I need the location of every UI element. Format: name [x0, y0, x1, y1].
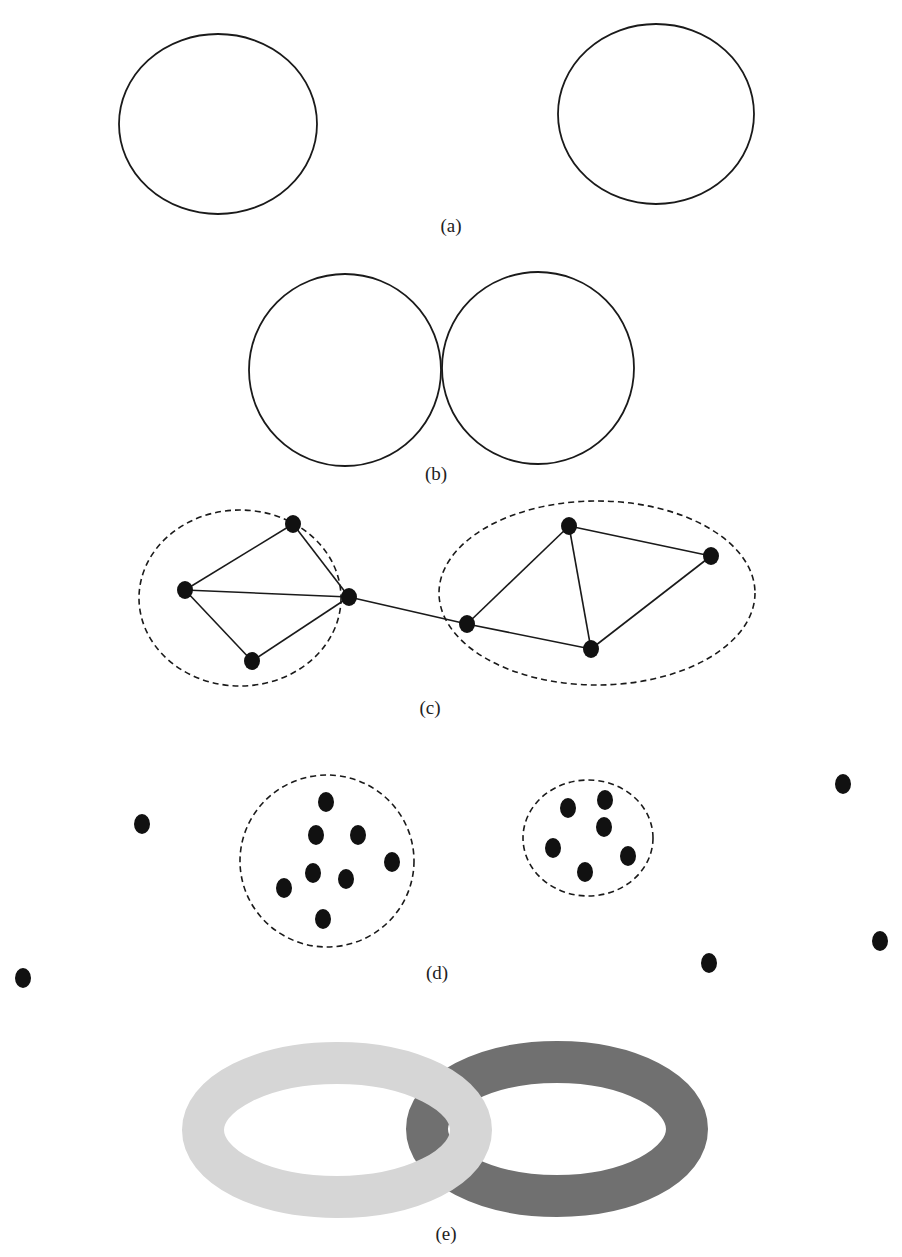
point: [384, 852, 400, 872]
node: [177, 581, 193, 599]
outlier-point: [835, 774, 851, 794]
edge: [293, 524, 349, 597]
caption-d: (d): [426, 962, 448, 984]
edge: [185, 590, 252, 661]
caption-b: (b): [425, 463, 447, 485]
panel-b: (b): [249, 272, 634, 485]
edge: [185, 524, 293, 590]
edge: [467, 624, 591, 649]
edge: [569, 526, 591, 649]
edge: [467, 526, 569, 624]
edge: [591, 556, 711, 649]
caption-c: (c): [419, 697, 440, 719]
outlier-point: [15, 968, 31, 988]
figure: (a) (b): [0, 0, 902, 1257]
point: [545, 838, 561, 858]
node: [561, 517, 577, 535]
bridge-edge: [349, 597, 467, 624]
node: [285, 515, 301, 533]
point: [276, 878, 292, 898]
circle-right: [558, 24, 754, 204]
panel-d: (d): [15, 774, 888, 988]
point: [577, 862, 593, 882]
point: [338, 869, 354, 889]
node: [459, 615, 475, 633]
point: [315, 909, 331, 929]
panel-e: (e): [203, 1062, 687, 1245]
caption-e: (e): [435, 1223, 456, 1245]
point: [350, 825, 366, 845]
cluster-boundary-right: [439, 501, 755, 685]
point: [308, 825, 324, 845]
edge: [185, 590, 349, 597]
outlier-point: [701, 953, 717, 973]
point: [596, 817, 612, 837]
node: [341, 588, 357, 606]
points: [15, 774, 888, 988]
outlier-point: [872, 931, 888, 951]
edge: [569, 526, 711, 556]
node: [703, 547, 719, 565]
point: [305, 863, 321, 883]
point: [597, 790, 613, 810]
point: [620, 846, 636, 866]
cluster-boundary-left: [139, 510, 341, 686]
node: [244, 652, 260, 670]
point: [560, 798, 576, 818]
edges: [185, 524, 711, 661]
node: [583, 640, 599, 658]
panel-c: (c): [139, 501, 755, 719]
caption-a: (a): [440, 215, 461, 237]
outlier-point: [134, 814, 150, 834]
point: [318, 792, 334, 812]
circle-right: [442, 272, 634, 464]
panel-a: (a): [119, 24, 754, 237]
circle-left: [249, 274, 441, 466]
circle-left: [119, 34, 317, 214]
